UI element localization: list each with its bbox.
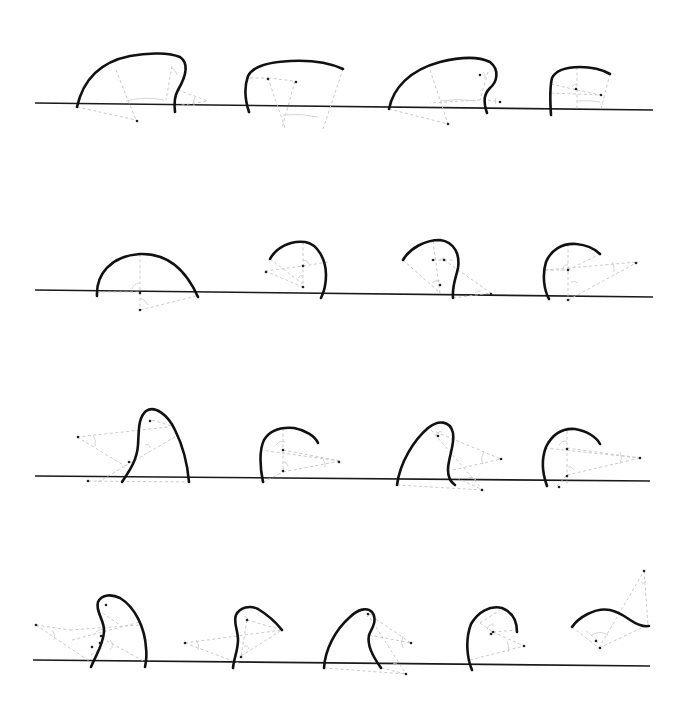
fin-shape xyxy=(77,409,189,482)
fin-curve xyxy=(389,58,496,113)
construction-line xyxy=(567,458,640,475)
fin-curve xyxy=(543,429,600,486)
arc-center-point xyxy=(643,570,646,573)
construction-line xyxy=(72,622,140,640)
arc-center-point xyxy=(575,88,578,91)
angle-arc-marker xyxy=(572,84,577,87)
construction-line xyxy=(116,70,136,120)
fin-shape xyxy=(260,428,340,482)
construction-line xyxy=(470,646,524,660)
construction-line xyxy=(545,262,638,270)
construction-line xyxy=(551,84,577,90)
fin-shape xyxy=(324,609,412,675)
construction-line xyxy=(444,260,491,293)
arc-center-point xyxy=(447,123,450,126)
fin-curve xyxy=(270,242,326,298)
arc-center-point xyxy=(77,436,80,439)
arc-center-point xyxy=(523,645,526,648)
construction-line xyxy=(265,266,303,271)
diagram-row xyxy=(35,240,653,311)
angle-arc-marker xyxy=(323,459,325,468)
angle-arc-marker xyxy=(612,262,614,272)
angle-arc-marker xyxy=(244,646,249,649)
fin-shape xyxy=(543,429,641,488)
diagram-row xyxy=(35,409,650,491)
construction-line xyxy=(283,450,340,461)
construction-line xyxy=(268,78,295,81)
fin-curve xyxy=(403,240,458,298)
angle-arc-marker xyxy=(52,630,55,640)
arc-center-point xyxy=(302,265,305,268)
construction-line xyxy=(599,625,648,648)
fin-shape xyxy=(77,53,208,122)
construction-line xyxy=(545,448,640,458)
angle-arc-marker xyxy=(402,636,404,648)
fin-curve xyxy=(233,607,282,668)
arc-center-point xyxy=(302,286,305,289)
arc-center-point xyxy=(136,120,139,123)
angle-arc-marker xyxy=(559,441,567,445)
fin-curve xyxy=(261,428,319,482)
arc-center-point xyxy=(595,640,598,643)
construction-line xyxy=(572,627,599,648)
arc-center-point xyxy=(492,631,495,634)
arc-center-point xyxy=(600,94,603,97)
arc-center-point xyxy=(139,292,142,295)
diagram-row xyxy=(33,570,650,676)
construction-line xyxy=(282,81,295,128)
arc-center-point xyxy=(432,259,435,262)
arc-center-point xyxy=(410,642,413,645)
arc-center-point xyxy=(558,486,561,489)
construction-line xyxy=(644,571,648,625)
arc-center-point xyxy=(566,475,569,478)
angle-arc-marker xyxy=(110,640,113,650)
angle-arc-marker xyxy=(578,101,600,102)
construction-line xyxy=(268,78,285,128)
arc-center-point xyxy=(35,624,38,627)
fin-shape xyxy=(389,58,501,125)
construction-line xyxy=(140,296,196,310)
angle-arc-marker xyxy=(93,435,96,446)
angle-arc-marker xyxy=(132,283,140,289)
angle-arc-marker xyxy=(283,114,318,117)
arc-center-point xyxy=(295,81,298,84)
arc-center-point xyxy=(99,642,102,645)
fin-shape xyxy=(550,67,610,115)
angle-arc-marker xyxy=(172,68,177,75)
construction-line xyxy=(263,472,283,482)
arc-center-point xyxy=(490,293,493,296)
construction-line xyxy=(178,90,208,101)
arc-center-point xyxy=(91,646,94,649)
angle-arc-marker xyxy=(140,298,148,305)
arc-center-point xyxy=(282,449,285,452)
fin-shape xyxy=(544,244,638,301)
construction-line xyxy=(430,70,448,124)
arc-center-point xyxy=(405,673,408,676)
angle-arc-marker xyxy=(440,100,476,102)
construction-line xyxy=(241,630,282,656)
arc-center-point xyxy=(490,633,493,636)
angle-arc-marker xyxy=(283,462,288,466)
angle-arc-marker xyxy=(482,452,484,464)
angle-arc-marker xyxy=(487,624,494,630)
arc-center-point xyxy=(105,604,108,607)
arc-center-point xyxy=(100,635,103,638)
construction-line xyxy=(98,466,125,482)
baseline xyxy=(35,476,650,481)
fin-shape xyxy=(97,254,198,311)
arc-center-point xyxy=(367,613,370,616)
fin-shape xyxy=(184,607,282,668)
arc-center-point xyxy=(443,259,446,262)
arc-center-point xyxy=(128,461,131,464)
construction-line xyxy=(102,638,145,662)
construction-line xyxy=(436,432,501,459)
construction-line xyxy=(488,100,500,102)
fin-curve xyxy=(467,607,517,670)
fin-shape xyxy=(35,595,147,667)
angle-arc-marker xyxy=(303,260,309,264)
construction-line xyxy=(36,625,92,663)
fin-shape xyxy=(265,242,328,298)
construction-line xyxy=(185,630,282,643)
construction-line xyxy=(493,630,517,632)
fin-curve xyxy=(324,609,381,668)
